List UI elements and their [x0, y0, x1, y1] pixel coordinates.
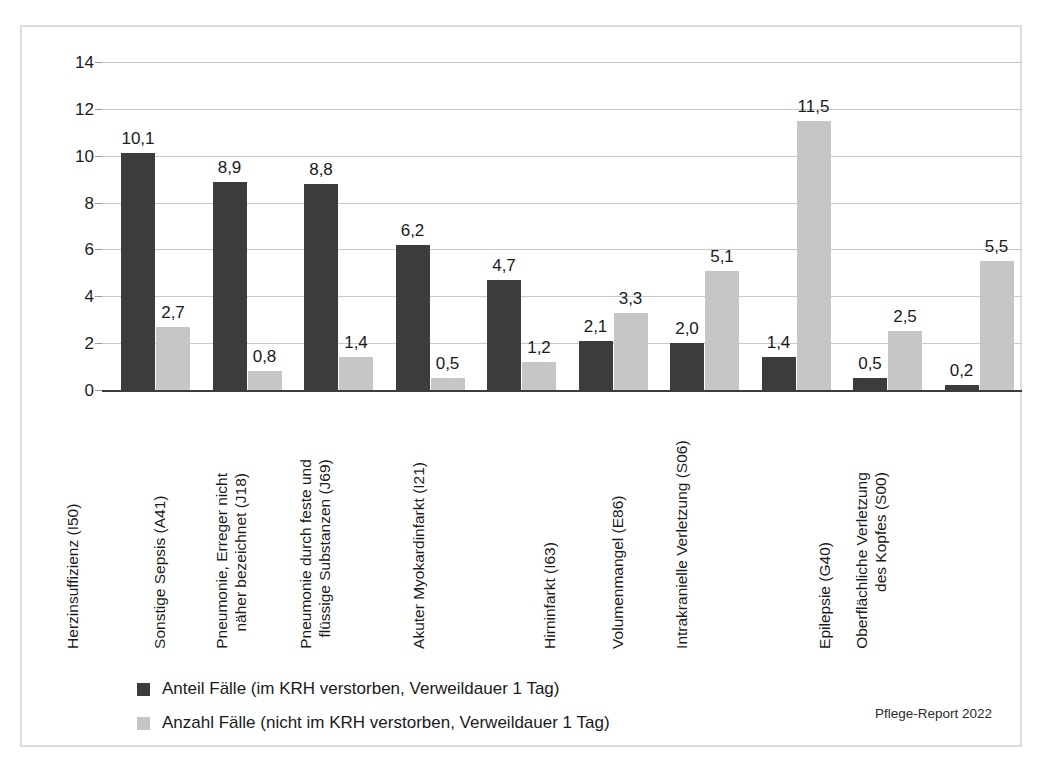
bar-value-label: 6,2	[383, 222, 443, 239]
x-axis-label-text: Oberflächliche Verletzungdes Kopfes (S00…	[853, 472, 891, 649]
bar-group: 2,05,1	[670, 62, 739, 390]
y-axis-tick-label: 6	[54, 241, 94, 258]
bar-group: 0,25,5	[945, 62, 1014, 390]
y-tick-mark	[95, 109, 102, 110]
y-tick-mark	[95, 156, 102, 157]
bar-value-label: 1,2	[509, 339, 569, 356]
credit-text: Pflege-Report 2022	[875, 706, 992, 721]
y-axis-tick-label: 10	[54, 147, 94, 164]
y-tick-mark	[95, 390, 102, 391]
plot-area: 02468101214 10,12,78,90,88,81,46,20,54,7…	[102, 62, 1022, 390]
bar-value-label: 4,7	[474, 257, 534, 274]
bar-value-label: 5,1	[692, 248, 752, 265]
y-axis-tick-label: 14	[54, 54, 94, 71]
bar-group: 10,12,7	[121, 62, 190, 390]
bar-value-label: 5,5	[967, 238, 1027, 255]
legend-label: Anteil Fälle (im KRH verstorben, Verweil…	[162, 679, 559, 699]
bar-value-label: 2,7	[143, 304, 203, 321]
x-axis-label-text: Volumenmangel (E86)	[609, 496, 628, 649]
y-tick-mark	[95, 249, 102, 250]
x-axis-label-text: Pneumonie, Erreger nichtnäher bezeichnet…	[213, 473, 251, 649]
x-axis-label-text: Intrakranielle Verletzung (S06)	[673, 440, 692, 649]
x-axis-label-text: Epilepsie (G40)	[815, 542, 834, 649]
bar-value-label: 0,5	[418, 355, 478, 372]
y-tick-mark	[95, 296, 102, 297]
bar-value-label: 11,5	[784, 98, 844, 115]
bar-series-anzahl[interactable]	[614, 313, 648, 390]
bar-value-label: 1,4	[326, 334, 386, 351]
figure-frame: 02468101214 10,12,78,90,88,81,46,20,54,7…	[20, 25, 1022, 747]
axis-baseline	[102, 390, 1022, 392]
x-axis-label-text: Herzinsuffizienz (I50)	[64, 504, 83, 649]
legend-item[interactable]: Anzahl Fälle (nicht im KRH verstorben, V…	[137, 706, 610, 740]
bar-group: 6,20,5	[396, 62, 465, 390]
bar-value-label: 3,3	[601, 290, 661, 307]
x-axis-label-text: Akuter Myokardinfarkt (I21)	[409, 462, 428, 649]
bar-value-label: 10,1	[108, 130, 168, 147]
bar-series-anzahl[interactable]	[522, 362, 556, 390]
bar-series-anzahl[interactable]	[431, 378, 465, 390]
x-axis-label-text: Pneumonie durch feste undflüssige Substa…	[297, 459, 335, 649]
bar-series-anzahl[interactable]	[705, 271, 739, 390]
legend-swatch-icon	[137, 683, 150, 696]
bar-value-label: 8,9	[200, 159, 260, 176]
legend-label: Anzahl Fälle (nicht im KRH verstorben, V…	[162, 713, 610, 733]
bar-group: 8,81,4	[304, 62, 373, 390]
bar-series-anteil[interactable]	[579, 341, 613, 390]
bar-series-anteil[interactable]	[670, 343, 704, 390]
bar-value-label: 2,5	[875, 308, 935, 325]
bar-series-anteil[interactable]	[945, 385, 979, 390]
bar-series-anzahl[interactable]	[156, 327, 190, 390]
y-tick-mark	[95, 62, 102, 63]
y-axis-tick-label: 4	[54, 288, 94, 305]
legend-item[interactable]: Anteil Fälle (im KRH verstorben, Verweil…	[137, 672, 610, 706]
bar-value-label: 8,8	[291, 161, 351, 178]
legend-swatch-icon	[137, 717, 150, 730]
bar-series-anteil[interactable]	[121, 153, 155, 390]
bar-group: 1,411,5	[762, 62, 831, 390]
bar-group: 8,90,8	[213, 62, 282, 390]
y-axis-tick-label: 12	[54, 100, 94, 117]
x-axis-label: Oberflächliche Verletzungdes Kopfes (S00…	[945, 399, 1014, 649]
bar-series-anteil[interactable]	[853, 378, 887, 390]
bar-series-anzahl[interactable]	[248, 371, 282, 390]
y-axis-tick-label: 8	[54, 194, 94, 211]
bar-value-label: 0,8	[235, 348, 295, 365]
chart-page: 02468101214 10,12,78,90,88,81,46,20,54,7…	[0, 0, 1053, 779]
bar-series-anzahl[interactable]	[797, 121, 831, 390]
x-axis-label-text: Hirninfarkt (I63)	[541, 542, 560, 649]
bar-series-anteil[interactable]	[762, 357, 796, 390]
legend: Anteil Fälle (im KRH verstorben, Verweil…	[137, 672, 610, 740]
bar-series-anteil[interactable]	[304, 184, 338, 390]
bar-series-anteil[interactable]	[487, 280, 521, 390]
bar-series-anzahl[interactable]	[980, 261, 1014, 390]
y-axis-tick-label: 0	[54, 382, 94, 399]
bar-series-anzahl[interactable]	[339, 357, 373, 390]
y-tick-mark	[95, 343, 102, 344]
bar-group: 0,52,5	[853, 62, 922, 390]
bar-group: 4,71,2	[487, 62, 556, 390]
bar-group: 2,13,3	[579, 62, 648, 390]
y-tick-mark	[95, 203, 102, 204]
bar-series-anzahl[interactable]	[888, 331, 922, 390]
bars-layer: 10,12,78,90,88,81,46,20,54,71,22,13,32,0…	[102, 62, 1022, 390]
x-axis-label: Pneumonie durch feste undflüssige Substa…	[396, 399, 465, 649]
y-axis-tick-label: 2	[54, 335, 94, 352]
x-axis-category-labels: Herzinsuffizienz (I50)Sonstige Sepsis (A…	[102, 399, 1022, 654]
x-axis-label-text: Sonstige Sepsis (A41)	[151, 496, 170, 649]
